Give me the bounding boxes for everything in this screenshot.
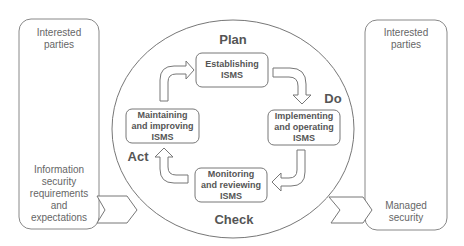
implementing-isms-label: Implementing and operating ISMS xyxy=(268,111,340,144)
phase-do-label: Do xyxy=(318,93,348,105)
right-panel xyxy=(365,20,447,230)
left-top-label: Interested parties xyxy=(19,27,99,51)
monitoring-isms-label: Monitoring and reviewing ISMS xyxy=(195,169,267,202)
right-top-label: Interested parties xyxy=(365,27,447,51)
input-chevron-arrow xyxy=(97,196,137,223)
establishing-isms-label: Establishing ISMS xyxy=(196,59,268,81)
right-bottom-label: Managed security xyxy=(365,200,447,224)
phase-act-label: Act xyxy=(123,151,153,163)
left-bottom-label: Information security requirements and ex… xyxy=(19,164,99,224)
phase-check-label: Check xyxy=(204,214,264,226)
phase-plan-label: Plan xyxy=(208,34,258,46)
maintaining-isms-label: Maintaining and improving ISMS xyxy=(126,110,199,143)
